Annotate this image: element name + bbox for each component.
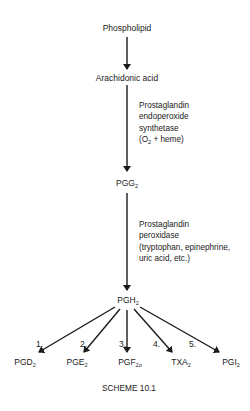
product-pgf2a: PGF2α	[118, 358, 142, 367]
enzyme1-line3: synthetase	[139, 123, 189, 134]
enzyme2-line2: peroxidase	[139, 230, 230, 241]
enzyme1-line2: endoperoxide	[139, 111, 189, 122]
node-arachidonic-acid: Arachidonic acid	[96, 74, 158, 83]
product-pgi2: PGI2	[222, 358, 240, 367]
node-phospholipid: Phospholipid	[103, 24, 152, 33]
step-number-2: 2.	[80, 340, 87, 349]
pathway-arrows	[0, 0, 250, 411]
product-txa2: TXA2	[171, 358, 191, 367]
enzyme2-line1: Prostaglandin	[139, 219, 230, 230]
step-number-5: 5.	[189, 340, 196, 349]
enzyme-label-prostaglandin-peroxidase: Prostaglandin peroxidase (tryptophan, ep…	[139, 219, 230, 264]
enzyme-label-endoperoxide-synthetase: Prostaglandin endoperoxide synthetase (O…	[139, 100, 189, 145]
node-pgg2: PGG2	[116, 179, 138, 188]
product-pge2: PGE2	[66, 358, 87, 367]
enzyme1-line1: Prostaglandin	[139, 100, 189, 111]
step-number-3: 3.	[119, 340, 126, 349]
scheme-caption: SCHEME 10.1	[102, 384, 156, 392]
enzyme2-line4: uric acid, etc.)	[139, 253, 230, 264]
enzyme1-line4: (O2 + heme)	[139, 134, 189, 145]
node-pgh2: PGH2	[117, 296, 138, 305]
step-number-1: 1.	[36, 340, 43, 349]
product-pgd2: PGD2	[14, 358, 35, 367]
enzyme2-line3: (tryptophan, epinephrine,	[139, 242, 230, 253]
step-number-4: 4.	[153, 340, 160, 349]
